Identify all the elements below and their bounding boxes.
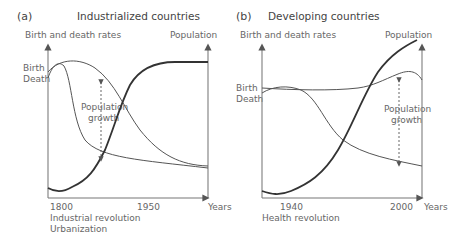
developing-chart <box>233 0 466 238</box>
death-rate-curve <box>262 87 422 166</box>
panel-industrialized: (a) Industrialized countries Birth and d… <box>0 0 233 238</box>
industrialized-chart <box>0 0 233 238</box>
panel-developing: (b) Developing countries Birth and death… <box>233 0 466 238</box>
death-rate-curve <box>48 64 208 168</box>
population-curve <box>48 62 208 191</box>
birth-rate-curve <box>48 61 208 166</box>
population-curve <box>262 40 417 194</box>
